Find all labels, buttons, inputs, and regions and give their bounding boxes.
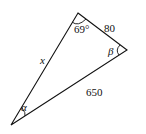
angle-arc-right [117, 45, 120, 55]
angle-bottom-left-label: α [21, 101, 27, 113]
angle-right-label: β [107, 45, 114, 57]
side-bottom-label: 650 [86, 86, 103, 98]
side-top-right-label: 80 [104, 22, 116, 34]
angle-top-label: 69° [74, 23, 89, 35]
side-left-label: x [39, 54, 45, 66]
triangle-diagram: 69° 80 β x 650 α [0, 0, 146, 134]
